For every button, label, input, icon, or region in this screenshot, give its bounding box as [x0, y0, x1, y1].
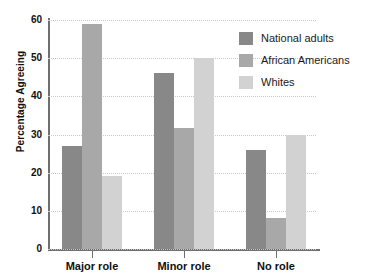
- bar-major-role-whites: [102, 176, 122, 249]
- chart-legend: National adultsAfrican AmericansWhites: [239, 27, 368, 93]
- legend-swatch-icon: [239, 54, 253, 67]
- bar-major-role-african-americans: [82, 24, 102, 249]
- bar-no-role-national-adults: [246, 150, 266, 249]
- bar-no-role-african-americans: [266, 218, 286, 249]
- legend-label: National adults: [261, 33, 334, 44]
- legend-label: African Americans: [261, 55, 350, 66]
- y-tick-label-40: 40: [18, 91, 42, 101]
- legend-label: Whites: [261, 77, 295, 88]
- legend-item-national-adults[interactable]: National adults: [239, 27, 368, 49]
- x-category-label-no-role: No role: [216, 260, 336, 272]
- bar-minor-role-national-adults: [154, 73, 174, 249]
- y-tick-label-10: 10: [18, 206, 42, 216]
- bar-chart: Percentage Agreeing 0102030405060 Major …: [0, 0, 368, 276]
- y-tick-label-20: 20: [18, 168, 42, 178]
- x-tick-0: [92, 251, 93, 258]
- x-tick-1: [184, 251, 185, 258]
- bar-minor-role-african-americans: [174, 128, 194, 249]
- y-tick-label-60: 60: [18, 15, 42, 25]
- legend-swatch-icon: [239, 76, 253, 89]
- gridline-0: [48, 249, 316, 250]
- y-tick-label-30: 30: [18, 130, 42, 140]
- y-tick-label-50: 50: [18, 53, 42, 63]
- legend-swatch-icon: [239, 32, 253, 45]
- bar-major-role-national-adults: [62, 146, 82, 249]
- x-tick-2: [276, 251, 277, 258]
- bar-minor-role-whites: [194, 58, 214, 249]
- legend-item-african-americans[interactable]: African Americans: [239, 49, 368, 71]
- bar-no-role-whites: [286, 135, 306, 250]
- y-tick-label-0: 0: [18, 244, 42, 254]
- legend-item-whites[interactable]: Whites: [239, 71, 368, 93]
